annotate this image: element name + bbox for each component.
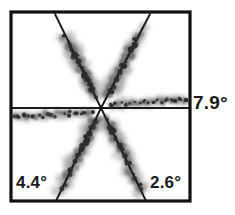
scatter-point xyxy=(160,101,163,104)
scatter-point xyxy=(109,104,114,109)
scatter-point xyxy=(111,84,116,89)
angle-label-bottom-right: 2.6° xyxy=(150,174,181,191)
scatter-point xyxy=(90,124,96,130)
scatter-point xyxy=(77,64,80,67)
scatter-point xyxy=(63,112,66,115)
scatter-point xyxy=(75,111,79,115)
scatter-point xyxy=(68,44,72,48)
scatter-point xyxy=(88,82,93,87)
scatter-point xyxy=(127,54,131,58)
scatter-point xyxy=(92,119,98,125)
scatter-point xyxy=(125,162,128,165)
scatter-point xyxy=(27,114,31,118)
scatter-point xyxy=(124,60,127,63)
scatter-point xyxy=(76,58,82,64)
scatter-point xyxy=(106,93,109,96)
scatter-point xyxy=(134,101,136,103)
scatter-point xyxy=(135,37,138,40)
scatter-point xyxy=(46,112,50,116)
scatter-point xyxy=(139,187,143,191)
scatter-point xyxy=(70,49,74,53)
scatter-point xyxy=(109,130,114,135)
scatter-point xyxy=(81,73,87,79)
scatter-point xyxy=(62,34,66,38)
scatter-point xyxy=(22,112,26,116)
scatter-point xyxy=(156,99,159,102)
scatter-point xyxy=(30,114,34,118)
scatter-point xyxy=(132,173,135,176)
scatter-point xyxy=(118,70,123,75)
scatter-point xyxy=(63,183,67,187)
scatter-point xyxy=(54,110,59,115)
scatter-point xyxy=(105,118,109,122)
scatter-point xyxy=(107,88,111,92)
scatter-point xyxy=(72,159,77,164)
scatter-point xyxy=(82,111,85,114)
scatter-point xyxy=(94,95,98,99)
scatter-point xyxy=(139,102,142,105)
scatter-point xyxy=(171,99,174,102)
scatter-point xyxy=(153,100,156,103)
scatter-point xyxy=(119,63,124,68)
scatter-point xyxy=(91,110,95,114)
scatter-point xyxy=(16,114,20,118)
scatter-point xyxy=(113,137,118,142)
scatter-point xyxy=(113,101,117,105)
scatter-point xyxy=(128,47,134,53)
angle-label-right: 7.9° xyxy=(193,93,228,112)
scatter-point xyxy=(88,133,92,137)
angle-label-bottom-left: 4.4° xyxy=(16,174,47,191)
scatter-point xyxy=(38,113,42,117)
scatter-point xyxy=(178,97,182,101)
scatter-point xyxy=(147,101,150,104)
angular-scatter-figure: 7.9° 4.4° 2.6° xyxy=(0,0,235,215)
scatter-point xyxy=(122,153,127,158)
scatter-point xyxy=(142,100,145,103)
scatter-point xyxy=(79,143,85,149)
scatter-point xyxy=(68,167,73,172)
scatter-point xyxy=(121,147,125,151)
scatter-point xyxy=(128,102,131,105)
scatter-point xyxy=(184,98,189,103)
scatter-point xyxy=(114,77,120,83)
scatter-point xyxy=(67,114,71,118)
scatter-point xyxy=(41,116,45,120)
scatter-point xyxy=(120,101,123,104)
scatter-point xyxy=(75,153,80,158)
scatter-point xyxy=(76,53,80,57)
scatter-point xyxy=(165,98,169,102)
scatter-point xyxy=(84,137,90,143)
scatter-point xyxy=(132,42,136,46)
scatter-point xyxy=(68,110,72,114)
scatter-point xyxy=(124,103,128,107)
scatter-point xyxy=(53,115,57,119)
scatter-point xyxy=(68,172,73,177)
scatter-point xyxy=(139,183,143,187)
scatter-point xyxy=(132,176,137,181)
scatter-point xyxy=(81,66,84,69)
scatter-point xyxy=(59,186,64,191)
